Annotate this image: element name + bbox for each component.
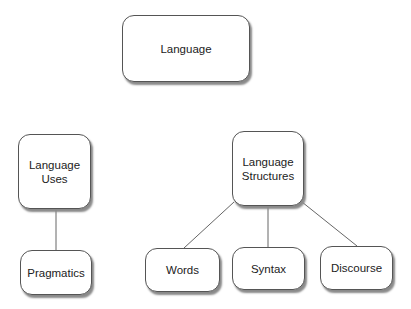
node-label: Discourse [331,261,382,275]
node-language: Language [122,15,250,82]
node-syntax: Syntax [232,247,305,290]
node-words: Words [145,248,220,292]
node-discourse: Discourse [320,246,393,290]
node-label: Language [160,42,211,56]
node-label: Syntax [251,262,286,276]
node-pragmatics: Pragmatics [20,250,92,295]
node-label: Language Structures [242,155,294,183]
node-label: Pragmatics [27,266,85,280]
node-label: Language Uses [29,158,80,186]
node-language-structures: Language Structures [232,131,304,206]
edge-structures-words [184,202,234,248]
node-language-uses: Language Uses [18,134,91,209]
edge-structures-discourse [302,202,357,246]
node-label: Words [166,263,199,277]
